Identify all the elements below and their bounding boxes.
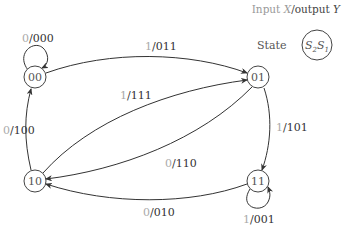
state-node-01: 01 bbox=[247, 66, 269, 88]
svg-text:10: 10 bbox=[28, 175, 42, 188]
svg-text:00: 00 bbox=[28, 71, 42, 84]
svg-text:11: 11 bbox=[251, 175, 265, 188]
state-node-00: 00 bbox=[24, 66, 46, 88]
label-10-01: 1/111 bbox=[120, 89, 152, 102]
legend-header: Input X/output Y bbox=[252, 3, 341, 15]
edge-01-11 bbox=[262, 88, 270, 170]
label-00-00: 0/000 bbox=[22, 32, 54, 45]
svg-text:01: 01 bbox=[251, 71, 265, 84]
label-01-11: 1/101 bbox=[276, 121, 308, 134]
label-11-10: 0/010 bbox=[143, 206, 175, 219]
state-node-11: 11 bbox=[247, 170, 269, 192]
legend-state-label: State bbox=[257, 39, 286, 52]
edge-00-01 bbox=[46, 56, 247, 73]
state-node-10: 10 bbox=[24, 170, 46, 192]
label-11-11: 1/001 bbox=[243, 213, 275, 226]
label-00-01: 1/011 bbox=[145, 40, 177, 53]
edge-11-10 bbox=[46, 184, 247, 200]
label-01-10: 0/110 bbox=[165, 157, 197, 170]
state-diagram: Input X/output Y State S2S1 00 01 10 11 … bbox=[0, 0, 347, 226]
label-10-00: 0/100 bbox=[3, 124, 35, 137]
